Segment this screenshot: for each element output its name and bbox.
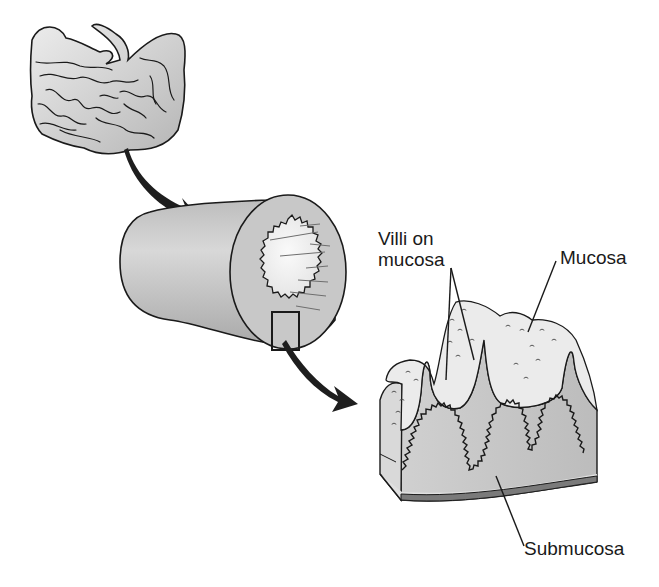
small-intestine-coil bbox=[31, 24, 186, 153]
diagram-canvas bbox=[0, 0, 659, 587]
intestinal-wall-block bbox=[380, 301, 597, 501]
intestine-tube-section bbox=[120, 195, 346, 350]
label-villi-line1: Villi on bbox=[378, 228, 445, 249]
label-submucosa: Submucosa bbox=[524, 538, 624, 559]
label-mucosa: Mucosa bbox=[560, 247, 627, 268]
label-villi-on-mucosa: Villi on mucosa bbox=[378, 228, 445, 270]
label-villi-line2: mucosa bbox=[378, 249, 445, 270]
